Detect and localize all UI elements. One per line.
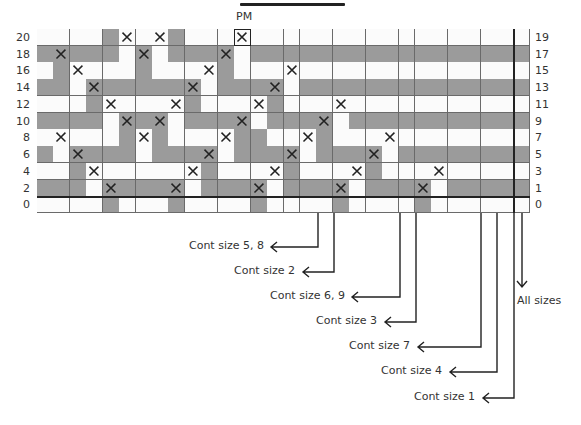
size-callout-label: Cont size 5, 8 <box>189 239 264 252</box>
size-callout-label: Cont size 7 <box>349 339 410 352</box>
size-callout-label: Cont size 2 <box>234 264 295 277</box>
size-callout-label: Cont size 4 <box>381 364 442 377</box>
leader-arrow <box>271 213 318 252</box>
leader-arrow <box>483 213 514 403</box>
chart-cell <box>234 29 251 46</box>
all-sizes-label: All sizes <box>517 294 561 307</box>
size-callout-label: Cont size 6, 9 <box>270 289 345 302</box>
size-leader-lines <box>0 0 581 425</box>
leader-arrow <box>418 213 481 352</box>
all-sizes-arrow <box>517 213 527 287</box>
size-callout-label: Cont size 3 <box>316 314 377 327</box>
leader-arrow <box>352 213 400 302</box>
x-stitch-icon <box>234 29 250 45</box>
size-callout-label: Cont size 1 <box>414 390 475 403</box>
leader-arrow <box>450 213 497 377</box>
